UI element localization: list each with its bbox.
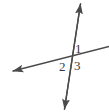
angle-label-1: 1 [75, 42, 82, 55]
steep-line-lower-arrow [65, 4, 81, 109]
angle-label-2: 2 [59, 60, 66, 73]
angle-label-3: 3 [74, 59, 81, 72]
diagram-canvas [0, 0, 109, 112]
geometry-figure: 1 2 3 [0, 0, 109, 112]
